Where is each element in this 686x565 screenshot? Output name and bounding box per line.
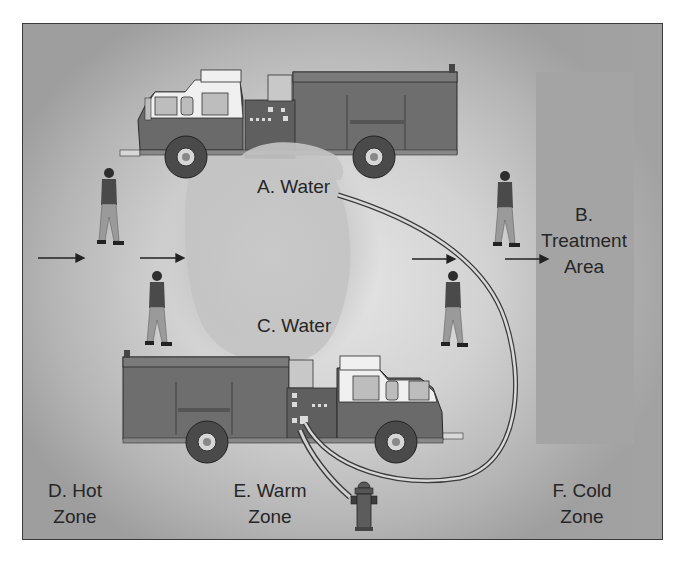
fire-engine-bottom [123,350,463,463]
label-b-line3: Area [535,254,633,280]
label-d-line1: D. Hot [35,478,115,504]
label-b-line1: B. [535,202,633,228]
person-icon [493,171,520,247]
label-c-water: C. Water [257,313,331,339]
arrow-right-icon [412,255,455,263]
label-a-water: A. Water [257,174,330,200]
fire-hydrant-icon [351,482,377,531]
label-f-line2: Zone [537,504,627,530]
label-f-cold-zone: F. Cold Zone [537,478,627,530]
arrow-right-icon [38,254,84,262]
person-icon [97,168,124,245]
person-icon [441,271,468,347]
label-b-line2: Treatment [535,228,633,254]
label-e-line1: E. Warm [225,478,315,504]
label-d-hot-zone: D. Hot Zone [35,478,115,530]
label-e-line2: Zone [225,504,315,530]
label-d-line2: Zone [35,504,115,530]
label-b-treatment-area: B. Treatment Area [535,202,633,280]
label-e-warm-zone: E. Warm Zone [225,478,315,530]
label-f-line1: F. Cold [537,478,627,504]
